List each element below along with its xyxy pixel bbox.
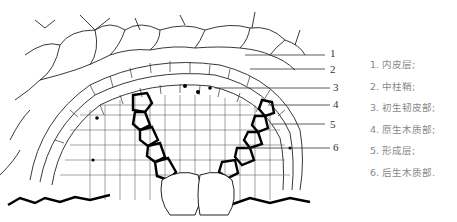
- callout-number-3: 3: [333, 81, 339, 93]
- callout-number-1: 1: [330, 47, 336, 59]
- legend-item-protoxylem: 4. 原生木质部;: [370, 119, 435, 141]
- callout-number-4: 4: [333, 98, 339, 110]
- root-cross-section-figure: 1 2 3 4 5 6: [0, 0, 340, 222]
- legend-item-cambium: 5. 形成层;: [370, 140, 435, 162]
- legend-item-endodermis: 1. 内皮层;: [370, 54, 435, 76]
- callout-number-6: 6: [333, 141, 339, 153]
- legend-item-metaxylem: 6. 后生木质部.: [370, 162, 435, 184]
- callout-number-2: 2: [330, 63, 336, 75]
- callout-number-5: 5: [330, 118, 336, 130]
- legend: 1. 内皮层; 2. 中柱鞘; 3. 初生韧皮部; 4. 原生木质部; 5. 形…: [370, 54, 435, 183]
- legend-item-primary-phloem: 3. 初生韧皮部;: [370, 97, 435, 119]
- legend-item-pericycle: 2. 中柱鞘;: [370, 76, 435, 98]
- cell-structure-drawing: [0, 0, 340, 222]
